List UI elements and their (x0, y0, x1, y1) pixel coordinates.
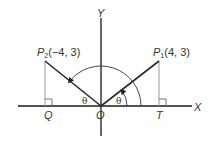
p1-coords: (4, 3) (164, 46, 190, 58)
y-axis-label: Y (97, 7, 105, 19)
theta-left-label: θ (82, 96, 87, 106)
origin-label: O (96, 109, 105, 121)
point-p1-label: P1(4, 3) (153, 46, 190, 59)
right-angle-marker-q (45, 99, 52, 106)
point-p2-label: P2(−4, 3) (37, 46, 80, 59)
small-angle-arc (122, 90, 127, 106)
ray-o-p2 (45, 61, 101, 106)
point-q-label: Q (44, 109, 53, 121)
point-t-label: T (156, 109, 164, 121)
x-axis-label: X (193, 101, 202, 113)
diagram-canvas: Y X O T Q P2(−4, 3) P1(4, 3) θ θ (0, 0, 211, 143)
ray-o-p1 (101, 61, 159, 106)
right-angle-marker-t (159, 99, 166, 106)
theta-right-label: θ (116, 96, 121, 106)
p2-coords: (−4, 3) (48, 46, 80, 58)
large-angle-arc (69, 66, 141, 106)
